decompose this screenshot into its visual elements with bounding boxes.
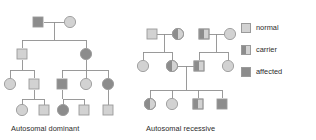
legend-item-carrier: carrier [241, 44, 313, 55]
individual-R-I-3 [199, 29, 209, 39]
individual-R-III-2 [166, 98, 177, 109]
individual-D-IV-1 [16, 104, 27, 115]
individual-D-II-2 [80, 48, 91, 59]
individual-D-I-2 [64, 16, 75, 27]
individual-R-III-4 [217, 99, 227, 109]
pedigree-figure: Autosomal dominant Autosomal recessive n… [0, 0, 316, 140]
caption-autosomal-dominant: Autosomal dominant [11, 124, 79, 133]
individual-R-III-3 [193, 99, 203, 109]
recessive-connector-lines [143, 34, 228, 98]
individual-R-I-2 [172, 28, 183, 39]
individual-D-I-1 [33, 17, 43, 27]
legend-item-affected: affected [241, 66, 313, 77]
individual-D-III-5 [102, 78, 113, 89]
legend-label-normal: normal [256, 23, 279, 32]
legend-label-affected: affected [256, 67, 282, 76]
individual-D-II-1 [17, 49, 27, 59]
caption-autosomal-recessive: Autosomal recessive [146, 124, 215, 133]
individual-R-II-1 [137, 60, 148, 71]
carrier-swatch [241, 45, 251, 55]
individual-R-I-4 [224, 28, 235, 39]
individual-D-III-1 [4, 78, 15, 89]
individual-D-III-4 [80, 78, 91, 89]
individual-D-IV-4 [79, 105, 89, 115]
normal-swatch [241, 23, 251, 33]
individual-D-IV-2 [39, 105, 49, 115]
individual-D-IV-3 [57, 104, 68, 115]
individual-R-I-1 [147, 29, 157, 39]
individual-D-IV-5 [103, 105, 113, 115]
individual-R-II-2 [166, 60, 177, 71]
recessive-pedigree-symbols [137, 28, 235, 109]
individual-D-III-3 [57, 79, 67, 89]
individual-R-II-4 [222, 60, 233, 71]
legend-label-carrier: carrier [256, 45, 277, 54]
individual-R-II-3 [194, 61, 204, 71]
dominant-connector-lines [10, 22, 108, 105]
legend-item-normal: normal [241, 22, 313, 33]
affected-swatch [241, 67, 251, 77]
individual-R-III-1 [144, 98, 155, 109]
individual-D-III-2 [29, 79, 39, 89]
dominant-pedigree-symbols [4, 16, 113, 115]
legend: normal carrier affected [241, 22, 313, 88]
